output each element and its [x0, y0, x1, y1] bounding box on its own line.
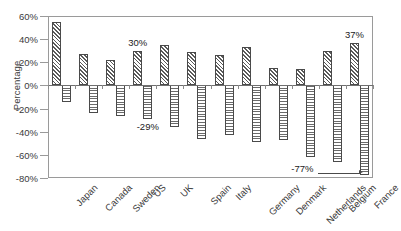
bar-positive-germany: [242, 47, 251, 85]
bar-positive-italy: [215, 55, 224, 85]
bar-negative-germany: [252, 85, 261, 142]
bar-negative-canada: [89, 85, 98, 113]
bar-positive-uk: [160, 45, 169, 86]
x-axis-tick: [319, 85, 320, 89]
bar-positive-belgium: [323, 51, 332, 86]
y-axis-tick-label: -60%: [0, 149, 38, 160]
y-axis-tick: [40, 39, 48, 40]
y-axis-tick-label: 20%: [0, 57, 38, 68]
y-axis-tick: [40, 16, 48, 17]
bar-negative-denmark: [279, 85, 288, 139]
x-axis-tick: [265, 85, 266, 89]
bar-negative-us: [143, 85, 152, 119]
x-axis-tick: [156, 85, 157, 89]
x-axis-tick: [102, 85, 103, 89]
bar-negative-uk: [170, 85, 179, 127]
bar-negative-italy: [225, 85, 234, 135]
x-axis-label-uk: UK: [178, 182, 195, 199]
y-axis-tick: [40, 85, 48, 86]
y-axis-tick-label: -80%: [0, 173, 38, 184]
bar-positive-canada: [79, 54, 88, 85]
y-axis-tick-label: 60%: [0, 11, 38, 22]
x-axis-label-japan: Japan: [73, 182, 99, 208]
x-axis-tick: [75, 85, 76, 89]
bar-negative-japan: [62, 85, 71, 101]
y-axis-tick: [40, 109, 48, 110]
bar-negative-belgium: [333, 85, 342, 161]
x-axis-tick: [373, 85, 374, 89]
bar-negative-netherlands: [306, 85, 315, 157]
x-axis-tick: [346, 85, 347, 89]
bar-positive-spain: [187, 52, 196, 86]
bar-positive-france: [350, 43, 359, 86]
data-label: -29%: [137, 121, 159, 132]
y-axis-tick: [40, 155, 48, 156]
x-axis-tick: [183, 85, 184, 89]
data-label: 37%: [345, 29, 364, 40]
bar-positive-denmark: [269, 68, 278, 85]
x-axis-tick: [292, 85, 293, 89]
y-axis-tick-label: 40%: [0, 34, 38, 45]
bar-negative-france: [360, 85, 369, 174]
data-label: 30%: [128, 37, 147, 48]
y-axis-tick: [40, 132, 48, 133]
x-axis-tick: [211, 85, 212, 89]
y-axis-tick: [40, 178, 48, 179]
x-axis-label-spain: Spain: [208, 182, 233, 207]
y-axis-tick-label: 0%: [0, 80, 38, 91]
x-axis-label-italy: Italy: [233, 182, 253, 202]
bar-negative-sweden: [116, 85, 125, 115]
bar-positive-sweden: [106, 60, 115, 85]
x-axis-tick: [48, 85, 49, 89]
bar-positive-netherlands: [296, 69, 305, 85]
bar-negative-spain: [197, 85, 206, 138]
y-axis-tick-label: -20%: [0, 103, 38, 114]
x-axis-label-france: France: [372, 182, 401, 211]
leader-line: [318, 173, 360, 174]
y-axis-tick: [40, 62, 48, 63]
y-axis-tick-label: -40%: [0, 126, 38, 137]
bar-positive-japan: [52, 22, 61, 86]
leader-arrow: [359, 170, 363, 174]
data-label: -77%: [291, 163, 313, 174]
x-axis-tick: [129, 85, 130, 89]
x-axis-label-canada: Canada: [102, 182, 133, 213]
bar-positive-us: [133, 51, 142, 86]
x-axis-tick: [238, 85, 239, 89]
